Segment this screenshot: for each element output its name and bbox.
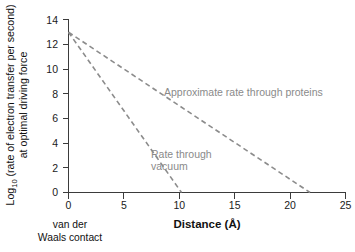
x-tick-label-0: 0: [66, 199, 72, 211]
x-tick-label-15: 15: [229, 199, 241, 211]
x-tick-label-10: 10: [173, 199, 185, 211]
van-der-waals-contact-line1: van der: [53, 219, 88, 230]
annotation-rate-through-vacuum-line1: Rate through: [151, 148, 212, 160]
y-tick-label-6: 6: [52, 112, 58, 124]
x-tick-label-20: 20: [284, 199, 296, 211]
y-tick-label-10: 10: [46, 63, 58, 75]
y-axis-tick-labels: 0 2 4 6 8 10 12 14: [46, 14, 58, 199]
y-axis-label-line2: at optimal driving force: [17, 52, 29, 159]
chart-canvas: Log10 (rate of electron transfer per sec…: [0, 0, 355, 252]
van-der-waals-contact-line2: Waals contact: [38, 232, 102, 243]
y-tick-label-4: 4: [52, 137, 58, 149]
x-axis-ticks: [69, 193, 346, 199]
x-tick-label-25: 25: [340, 199, 352, 211]
annotation-approximate-rate-through-proteins: Approximate rate through proteins: [164, 86, 323, 98]
y-tick-label-14: 14: [46, 14, 58, 26]
x-tick-label-5: 5: [121, 199, 127, 211]
y-tick-label-2: 2: [52, 162, 58, 174]
y-tick-label-12: 12: [46, 38, 58, 50]
annotation-rate-through-vacuum-line2: vacuum: [151, 160, 188, 172]
x-axis-title: Distance (Å): [173, 218, 240, 230]
electron-transfer-rate-chart: Log10 (rate of electron transfer per sec…: [0, 0, 355, 252]
series-line-approximate-rate-through-proteins: [69, 32, 311, 192]
x-axis-tick-labels: 0 5 10 15 20 25: [66, 199, 352, 211]
y-tick-label-0: 0: [52, 186, 58, 198]
y-tick-label-8: 8: [52, 88, 58, 100]
y-axis-ticks: [63, 20, 69, 193]
